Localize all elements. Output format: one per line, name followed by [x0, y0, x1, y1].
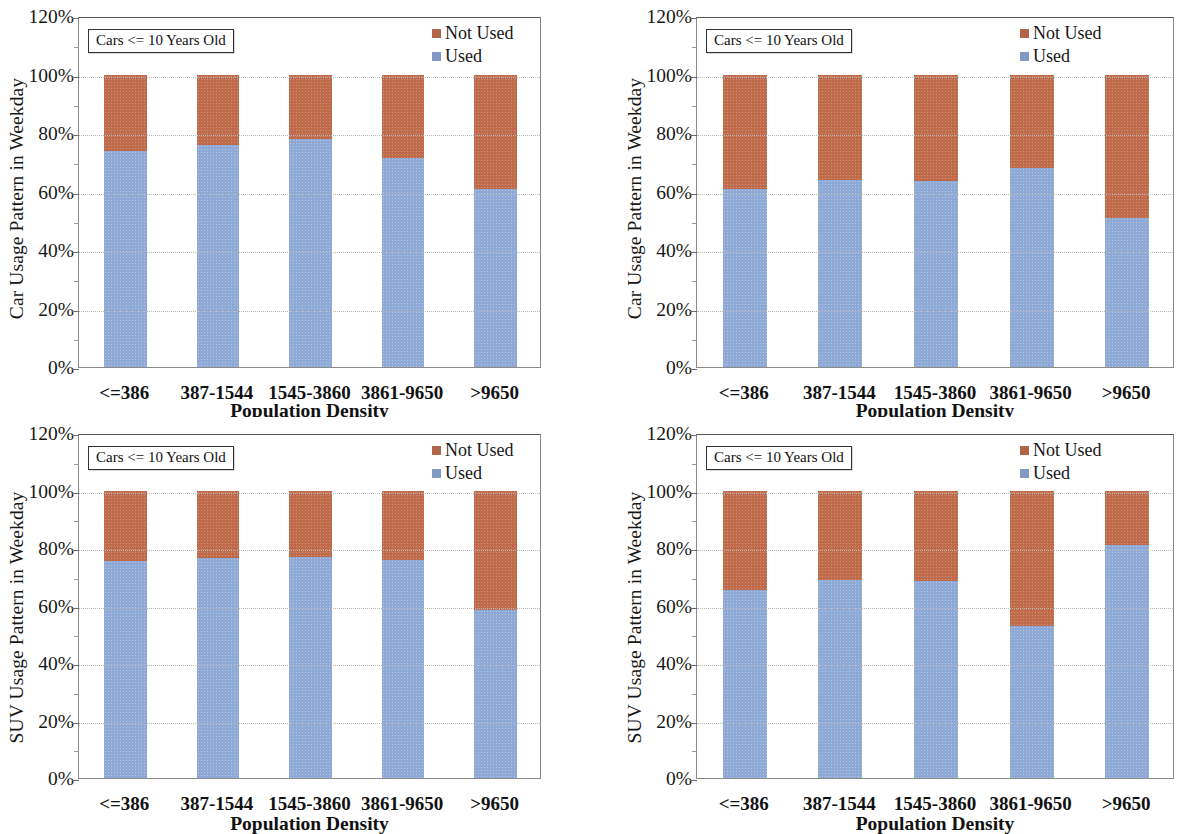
bar-segment-not-used: [914, 491, 958, 582]
plot-area: [696, 434, 1174, 779]
y-axis-major-tick: [72, 780, 79, 781]
y-axis-major-tick: [72, 550, 79, 551]
y-axis-minor-tick: [692, 340, 697, 341]
legend-item[interactable]: Used: [432, 462, 514, 485]
x-axis-tick-label: <=386: [99, 793, 149, 815]
y-axis-tick-label: 40%: [38, 240, 74, 262]
y-axis-major-tick: [690, 665, 697, 666]
bar-segment-not-used: [474, 75, 517, 189]
y-axis-tick-label: 40%: [656, 240, 692, 262]
y-axis-minor-tick: [74, 751, 79, 752]
y-axis-major-tick: [690, 493, 697, 494]
y-axis-major-tick: [690, 550, 697, 551]
legend-item[interactable]: Not Used: [1020, 22, 1102, 45]
legend-item[interactable]: Used: [1020, 45, 1102, 68]
gridline: [79, 135, 540, 136]
y-axis-minor-tick: [692, 579, 697, 580]
y-axis-tick-label: 40%: [38, 653, 74, 675]
legend-swatch-icon: [432, 29, 441, 38]
y-axis-minor-tick: [74, 340, 79, 341]
y-axis-major-tick: [690, 608, 697, 609]
bar-segment-not-used: [1010, 75, 1054, 169]
chart-figure-grid: Car Usage Pattern in Weekday 0%20%40%60%…: [0, 0, 1187, 834]
legend-swatch-icon: [1020, 446, 1029, 455]
y-axis-major-tick: [72, 493, 79, 494]
y-axis-tick-label: 60%: [38, 182, 74, 204]
legend-item[interactable]: Used: [1020, 462, 1102, 485]
y-axis-major-tick: [690, 77, 697, 78]
stacked-bar: [818, 75, 862, 368]
y-axis-tick-label: 0%: [48, 357, 74, 379]
y-axis-major-tick: [72, 723, 79, 724]
bar-segment-not-used: [1010, 491, 1054, 626]
stacked-bar: [197, 491, 240, 779]
y-axis-major-tick: [72, 369, 79, 370]
y-axis-major-tick: [72, 252, 79, 253]
gridline: [79, 493, 540, 494]
gridline: [697, 311, 1173, 312]
legend-item-label: Not Used: [1033, 440, 1102, 461]
x-axis-tick-label: >9650: [1102, 793, 1151, 815]
bar-segment-used: [1010, 626, 1054, 778]
chart-panel-bottom-left: SUV Usage Pattern in Weekday 0%20%40%60%…: [0, 417, 620, 834]
chart-panel-bottom-right: SUV Usage Pattern in Weekday 0%20%40%60%…: [620, 417, 1187, 834]
bar-segment-used: [1105, 545, 1149, 778]
y-axis-major-tick: [72, 77, 79, 78]
stacked-bar: [382, 75, 425, 368]
y-axis-tick-label: 100%: [647, 481, 693, 503]
y-axis-tick-label: 100%: [29, 481, 75, 503]
legend-item-label: Used: [1033, 463, 1070, 484]
y-axis-tick-labels: 0%20%40%60%80%100%120%: [620, 17, 692, 368]
gridline: [79, 77, 540, 78]
annotation-box: Cars <= 10 Years Old: [88, 29, 234, 53]
y-axis-minor-tick: [692, 521, 697, 522]
legend-swatch-icon: [1020, 52, 1029, 61]
bar-segment-used: [382, 560, 425, 779]
gridline: [697, 135, 1173, 136]
stacked-bar: [1105, 75, 1149, 368]
y-axis-minor-tick: [692, 281, 697, 282]
y-axis-tick-label: 20%: [656, 711, 692, 733]
y-axis-tick-label: 120%: [647, 423, 693, 445]
stacked-bar: [914, 491, 958, 779]
x-axis-tick-label: <=386: [719, 793, 769, 815]
chart-panel-top-right: Car Usage Pattern in Weekday 0%20%40%60%…: [620, 0, 1187, 417]
gridline: [79, 608, 540, 609]
gridline: [697, 723, 1173, 724]
gridline: [79, 665, 540, 666]
bar-segment-used: [104, 561, 147, 778]
bar-segment-not-used: [197, 491, 240, 559]
y-axis-tick-labels: 0%20%40%60%80%100%120%: [0, 17, 74, 368]
stacked-bar: [1105, 491, 1149, 779]
legend-item-label: Not Used: [1033, 23, 1102, 44]
legend: Not UsedUsed: [1020, 22, 1102, 68]
bar-segment-not-used: [818, 75, 862, 180]
y-axis-tick-label: 80%: [38, 538, 74, 560]
chart-panel-top-left: Car Usage Pattern in Weekday 0%20%40%60%…: [0, 0, 620, 417]
bar-segment-used: [104, 151, 147, 367]
x-axis-tick-label: 3861-9650: [989, 793, 1071, 815]
y-axis-tick-label: 80%: [38, 123, 74, 145]
legend-item[interactable]: Not Used: [1020, 439, 1102, 462]
y-axis-tick-label: 20%: [38, 299, 74, 321]
stacked-bar: [474, 75, 517, 368]
legend-item[interactable]: Not Used: [432, 22, 514, 45]
y-axis-minor-tick: [74, 47, 79, 48]
bar-series-container: [697, 435, 1173, 778]
bar-segment-not-used: [723, 491, 767, 590]
y-axis-major-tick: [72, 665, 79, 666]
stacked-bar: [818, 491, 862, 779]
y-axis-major-tick: [690, 252, 697, 253]
gridline: [79, 252, 540, 253]
bar-segment-used: [197, 145, 240, 367]
legend-item[interactable]: Used: [432, 45, 514, 68]
y-axis-tick-label: 0%: [48, 768, 74, 790]
bar-segment-used: [1105, 218, 1149, 367]
y-axis-tick-label: 120%: [29, 423, 75, 445]
y-axis-major-tick: [690, 369, 697, 370]
y-axis-tick-label: 100%: [29, 65, 75, 87]
y-axis-minor-tick: [692, 223, 697, 224]
y-axis-major-tick: [72, 435, 79, 436]
legend-swatch-icon: [432, 469, 441, 478]
legend-item[interactable]: Not Used: [432, 439, 514, 462]
